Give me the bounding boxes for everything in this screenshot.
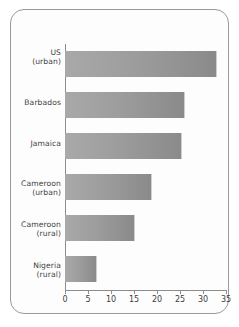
x-tick-0	[65, 290, 66, 294]
x-tick-label-20: 20	[145, 295, 169, 304]
x-tick-35	[226, 290, 227, 294]
bar-us-urban	[65, 51, 217, 77]
category-label-0-line2: (urban)	[0, 57, 61, 66]
x-tick-20	[157, 290, 158, 294]
category-label-5: Nigeria (rural)	[0, 261, 61, 280]
category-label-2-line1: Jamaica	[0, 139, 61, 148]
x-tick-30	[203, 290, 204, 294]
x-tick-label-25: 25	[168, 295, 192, 304]
category-label-3: Cameroon (urban)	[0, 179, 61, 198]
x-tick-label-35: 35	[214, 295, 238, 304]
bar-nigeria-rural	[65, 256, 97, 282]
category-label-5-line2: (rural)	[0, 270, 61, 279]
bar-cameroon-urban	[65, 174, 152, 200]
x-tick-10	[111, 290, 112, 294]
category-label-3-line1: Cameroon	[0, 179, 61, 188]
x-tick-5	[88, 290, 89, 294]
category-label-1-line1: Barbados	[0, 98, 61, 107]
category-label-4: Cameroon (rural)	[0, 220, 61, 239]
x-tick-label-10: 10	[99, 295, 123, 304]
x-tick-label-30: 30	[191, 295, 215, 304]
category-label-0: US (urban)	[0, 48, 61, 67]
bar-jamaica	[65, 133, 182, 159]
bar-cameroon-rural	[65, 215, 135, 241]
category-label-0-line1: US	[0, 48, 61, 57]
category-label-3-line2: (urban)	[0, 188, 61, 197]
category-label-1: Barbados	[0, 98, 61, 107]
category-label-5-line1: Nigeria	[0, 261, 61, 270]
x-tick-label-15: 15	[122, 295, 146, 304]
category-label-4-line1: Cameroon	[0, 220, 61, 229]
x-tick-25	[180, 290, 181, 294]
bar-barbados	[65, 92, 185, 118]
x-tick-label-0: 0	[53, 295, 77, 304]
x-tick-label-5: 5	[76, 295, 100, 304]
x-tick-15	[134, 290, 135, 294]
x-axis-line	[65, 290, 226, 291]
chart-figure: US (urban) Barbados Jamaica Cameroon (ur…	[0, 0, 239, 327]
category-label-2: Jamaica	[0, 139, 61, 148]
category-label-4-line2: (rural)	[0, 229, 61, 238]
plot-area	[65, 44, 226, 290]
